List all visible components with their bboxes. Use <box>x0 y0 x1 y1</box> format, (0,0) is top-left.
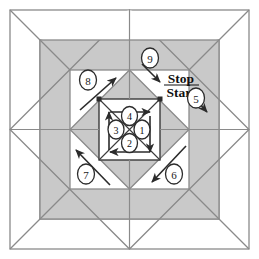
step-circle-8[interactable]: 8 <box>80 70 97 90</box>
step-5-number: 5 <box>193 93 199 105</box>
step-8-number: 8 <box>85 75 91 87</box>
step-circle-9[interactable]: 9 <box>142 48 159 68</box>
step-circle-6[interactable]: 6 <box>166 164 183 184</box>
corner-marker-tl <box>97 97 102 102</box>
step-2-number: 2 <box>127 138 132 149</box>
step-7-number: 7 <box>83 169 89 181</box>
step-circle-4[interactable]: 4 <box>122 107 138 126</box>
corner-marker-tr <box>158 97 163 102</box>
step-3-number: 3 <box>114 125 119 136</box>
quilt-block-diagram: Stop Start 5 6 7 8 <box>0 0 259 259</box>
quilt-diagram-canvas: Stop Start 5 6 7 8 <box>0 0 259 259</box>
step-6-number: 6 <box>171 169 177 181</box>
step-circle-5[interactable]: 5 <box>188 88 205 108</box>
step-circle-3[interactable]: 3 <box>108 120 124 139</box>
step-4-number: 4 <box>127 111 132 122</box>
stop-label: Stop <box>168 71 194 86</box>
step-circle-2[interactable]: 2 <box>122 134 138 153</box>
step-circle-7[interactable]: 7 <box>78 164 95 184</box>
step-9-number: 9 <box>147 53 153 65</box>
step-1-number: 1 <box>140 125 145 136</box>
step-circle-1[interactable]: 1 <box>134 120 150 139</box>
